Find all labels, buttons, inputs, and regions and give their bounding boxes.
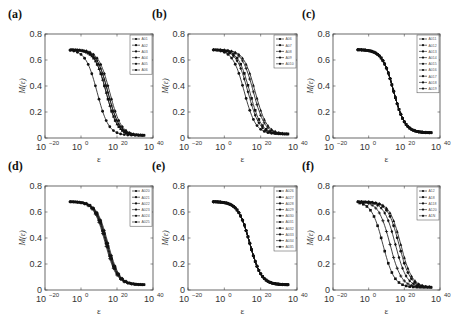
legend-entry: A016 <box>429 68 437 72</box>
x-tick-label: 10 <box>36 142 46 152</box>
x-tick-exponent: 20 <box>408 292 415 298</box>
y-tick-label: 0.2 <box>29 259 42 269</box>
x-tick-exponent: 40 <box>444 140 451 146</box>
subplot-f: (f)00.20.40.60.810−2010010201040εM(ε)A12… <box>302 159 451 316</box>
y-tick-label: 0.8 <box>317 29 330 39</box>
x-tick-exponent: 20 <box>121 140 128 146</box>
legend-entry: A031 <box>286 220 294 224</box>
legend-entry: A012 <box>429 44 437 48</box>
subplot-b: (b)00.20.40.60.810−2010010201040εM(ε)A06… <box>152 7 308 164</box>
subplot-c: (c)00.20.40.60.810−2010010201040εM(ε)A01… <box>302 7 451 164</box>
legend-entry: A09 <box>286 56 292 60</box>
y-axis-label: M(ε) <box>18 230 27 246</box>
legend: A011A012A013A014A015A016A017A018A019 <box>417 35 439 93</box>
x-tick-label: 10 <box>252 294 262 304</box>
y-tick-label: 0.4 <box>29 233 42 243</box>
y-tick-label: 0.2 <box>317 259 330 269</box>
legend-entry: A025 <box>142 220 150 224</box>
y-tick-label: 0.8 <box>172 29 185 39</box>
x-tick-exponent: −20 <box>192 292 203 298</box>
x-tick-exponent: 40 <box>444 292 451 298</box>
y-axis-label: M(ε) <box>306 230 315 246</box>
legend-entry: A021 <box>142 196 150 200</box>
legend-entry: A013 <box>429 50 437 54</box>
legend-entry: A019 <box>429 87 437 91</box>
legend-entry: A020 <box>142 189 150 193</box>
x-tick-exponent: −20 <box>337 140 348 146</box>
x-tick-exponent: 20 <box>265 140 272 146</box>
legend-entry: A18 <box>429 196 435 200</box>
x-axis-label: ε <box>241 306 245 316</box>
x-tick-label: 10 <box>72 142 82 152</box>
x-tick-label: 10 <box>360 142 370 152</box>
panel-label: (f) <box>302 159 314 173</box>
legend-entry: A030 <box>286 214 294 218</box>
y-tick-label: 0.2 <box>172 107 185 117</box>
legend-entry: A02 <box>142 44 148 48</box>
x-tick-exponent: 40 <box>301 140 308 146</box>
legend-entry: A024 <box>142 214 150 218</box>
legend-entry: A018 <box>429 81 437 85</box>
x-tick-label: 10 <box>395 142 405 152</box>
legend-entry: A118 <box>429 202 437 206</box>
x-tick-exponent: 20 <box>265 292 272 298</box>
panel-label: (b) <box>152 7 167 21</box>
figure-canvas: (a)00.20.40.60.810−2010010201040εM(ε)A01… <box>0 0 464 329</box>
y-tick-label: 0.6 <box>29 207 42 217</box>
y-tick-label: 0.2 <box>317 107 330 117</box>
y-tick-label: 0.8 <box>317 181 330 191</box>
x-tick-exponent: −20 <box>49 292 60 298</box>
y-tick-label: 0.6 <box>317 55 330 65</box>
x-tick-label: 10 <box>288 294 298 304</box>
x-tick-label: 10 <box>144 294 154 304</box>
y-axis-label: M(ε) <box>161 230 170 246</box>
legend: A01A02A03A04A05A06 <box>130 35 152 74</box>
panel-label: (a) <box>8 7 22 21</box>
y-axis-label: M(ε) <box>306 78 315 94</box>
legend-entry: A01 <box>142 37 148 41</box>
x-axis-label: ε <box>97 306 101 316</box>
y-tick-label: 0.4 <box>172 233 185 243</box>
y-tick-label: 0.8 <box>29 181 42 191</box>
x-tick-label: 10 <box>144 142 154 152</box>
legend: A020A021A022A023A024A025 <box>130 187 152 226</box>
x-tick-label: 10 <box>431 142 441 152</box>
x-tick-label: 10 <box>431 294 441 304</box>
x-tick-label: 10 <box>108 294 118 304</box>
panel-label: (e) <box>152 159 165 173</box>
legend-entry: A022 <box>142 202 150 206</box>
legend-entry: A015 <box>429 62 437 66</box>
panel-label: (c) <box>302 7 315 21</box>
x-tick-exponent: 0 <box>228 292 232 298</box>
x-tick-exponent: 0 <box>373 140 377 146</box>
y-tick-label: 0.4 <box>29 81 42 91</box>
y-tick-label: 0.6 <box>317 207 330 217</box>
x-tick-label: 10 <box>395 294 405 304</box>
subplot-a: (a)00.20.40.60.810−2010010201040εM(ε)A01… <box>8 7 164 164</box>
x-tick-label: 10 <box>288 142 298 152</box>
y-tick-label: 0.4 <box>172 81 185 91</box>
legend-entry: A028 <box>286 202 294 206</box>
y-tick-label: 0.4 <box>317 233 330 243</box>
y-tick-label: 0.6 <box>172 207 185 217</box>
x-tick-label: 10 <box>179 142 189 152</box>
x-tick-label: 10 <box>215 142 225 152</box>
x-tick-label: 10 <box>324 142 334 152</box>
legend-entry: A033 <box>286 233 294 237</box>
x-tick-exponent: 0 <box>85 292 89 298</box>
legend-entry: A06 <box>286 37 292 41</box>
x-axis-label: ε <box>241 154 245 164</box>
y-axis-label: M(ε) <box>18 78 27 94</box>
x-tick-label: 10 <box>179 294 189 304</box>
legend-entry: A035 <box>286 245 294 249</box>
legend-entry: A06 <box>142 68 148 72</box>
legend-entry: A04 <box>142 56 148 60</box>
x-tick-label: 10 <box>252 142 262 152</box>
x-axis-label: ε <box>385 306 389 316</box>
legend-entry: A017 <box>429 75 437 79</box>
legend: A06A07A08A09A010 <box>274 35 296 68</box>
y-tick-label: 0.6 <box>172 55 185 65</box>
panel-label: (d) <box>8 159 23 173</box>
x-tick-label: 10 <box>215 294 225 304</box>
legend-entry: A1N <box>429 214 436 218</box>
